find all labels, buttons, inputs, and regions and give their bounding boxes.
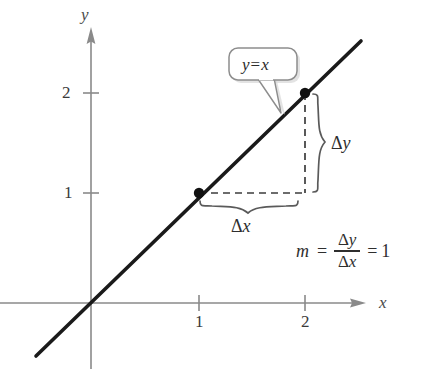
callout-equals: = [250, 55, 262, 74]
delta-x-label: Δx [231, 217, 251, 235]
y-axis-label: y [81, 6, 89, 23]
delta-x-symbol: Δ [231, 216, 243, 236]
delta-y-brace [313, 94, 325, 192]
x-tick-label-2: 2 [301, 313, 310, 330]
slope-formula-denominator: Δx [336, 253, 358, 271]
point-2-2 [300, 88, 310, 98]
slope-formula-fraction: Δy Δx [334, 231, 360, 271]
slope-formula-numerator: Δy [336, 231, 358, 249]
delta-y-label: Δy [331, 134, 351, 152]
slope-formula-equals-1: = [317, 241, 327, 262]
numerator-variable: y [349, 230, 357, 249]
delta-y-symbol: Δ [331, 133, 343, 153]
slope-formula: m = Δy Δx = 1 [296, 231, 390, 271]
numerator-delta: Δ [338, 230, 349, 249]
delta-x-variable: x [243, 216, 251, 236]
callout-lhs: y [242, 55, 250, 74]
x-tick-label-1: 1 [195, 313, 204, 330]
axes-group [0, 27, 366, 369]
slope-formula-result: 1 [381, 241, 390, 262]
denominator-variable: x [349, 252, 357, 271]
denominator-delta: Δ [338, 252, 349, 271]
y-tick-label-1: 1 [64, 184, 73, 201]
dashed-construction-group [199, 93, 305, 193]
slope-formula-m: m [296, 241, 309, 262]
y-axis-arrowhead [87, 27, 96, 44]
callout-label: y=x [242, 56, 269, 73]
y-tick-label-2: 2 [62, 84, 71, 101]
callout-rhs: x [261, 55, 269, 74]
figure-container: y x 2 1 1 2 y=x Δy Δx m = Δy Δx = 1 [0, 0, 428, 369]
delta-y-variable: y [343, 133, 351, 153]
x-axis-label: x [379, 294, 387, 311]
callout-tail [258, 78, 281, 113]
x-axis-arrowhead [350, 299, 366, 308]
point-1-1 [194, 188, 204, 198]
delta-x-brace [200, 201, 298, 213]
slope-formula-equals-2: = [367, 241, 377, 262]
